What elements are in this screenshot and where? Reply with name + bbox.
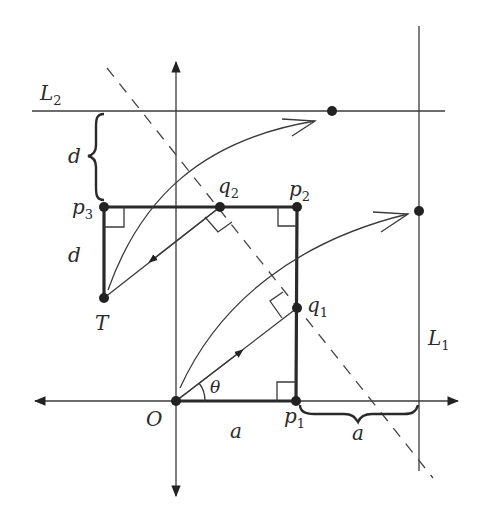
point-on-L2: [327, 106, 337, 116]
label-a-right: a: [352, 421, 364, 445]
point-q2: [215, 202, 225, 212]
ray-arrow-q2-T: [152, 207, 220, 260]
label-p2: p2: [289, 177, 310, 204]
label-T: T: [95, 311, 110, 335]
label-p3: p3: [72, 195, 93, 222]
right-angle-q2: [205, 217, 232, 232]
diagram-canvas: L2 L1 p3 p2 p1 q2 q1 T O θ d d a a: [0, 0, 484, 529]
brace-d: [88, 114, 104, 200]
label-a-left: a: [230, 419, 242, 443]
point-on-L1: [414, 206, 424, 216]
right-angle-q1: [270, 292, 283, 318]
label-L2: L2: [39, 81, 62, 108]
theta-arc: [199, 383, 205, 401]
label-p1: p1: [284, 404, 305, 431]
curve-O-to-L1: [180, 214, 408, 388]
brace-a: [300, 405, 418, 422]
label-L1: L1: [427, 326, 450, 353]
label-O: O: [146, 407, 162, 431]
label-q1: q1: [307, 293, 328, 320]
label-d-upper: d: [68, 144, 81, 168]
point-p3: [99, 202, 109, 212]
point-q1: [292, 303, 302, 313]
point-p2: [292, 202, 302, 212]
label-q2: q2: [218, 174, 239, 201]
label-d-lower: d: [68, 243, 81, 267]
point-O: [171, 396, 181, 406]
label-theta: θ: [210, 377, 220, 397]
point-T: [99, 293, 109, 303]
